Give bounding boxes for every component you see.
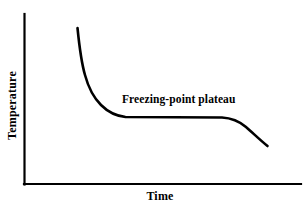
y-axis-label: Temperature (5, 68, 20, 144)
x-axis-label: Time (132, 189, 188, 204)
freezing-point-plateau-label: Freezing-point plateau (122, 93, 235, 105)
plot-area (0, 0, 307, 210)
cooling-curve-figure: Temperature Time Freezing-point plateau (0, 0, 307, 210)
cooling-curve-path (78, 28, 268, 146)
